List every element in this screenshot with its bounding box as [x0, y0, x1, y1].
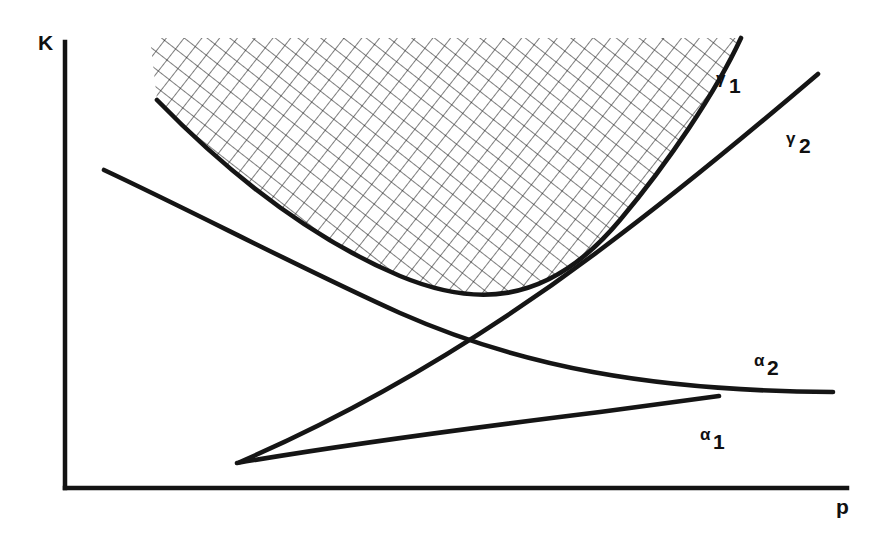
- curve-label-gamma1-base: γ: [716, 69, 726, 88]
- hatched-region: [140, 30, 760, 330]
- curve-label-gamma1-subscript: 1: [729, 74, 741, 97]
- diagram-svg: K p γ 1 γ 2 α 2 α 1: [0, 0, 882, 541]
- curve-label-gamma2: γ 2: [786, 129, 811, 157]
- figure-canvas: K p γ 1 γ 2 α 2 α 1: [0, 0, 882, 541]
- curve-label-alpha2-base: α: [754, 351, 765, 370]
- curve-label-alpha1-subscript: 1: [713, 430, 725, 453]
- curve-label-alpha2: α 2: [754, 351, 779, 379]
- curve-label-gamma2-base: γ: [786, 129, 796, 148]
- crosshatch-fill: [140, 30, 760, 330]
- curve-label-alpha2-subscript: 2: [767, 356, 779, 379]
- curve-label-gamma1: γ 1: [716, 69, 741, 97]
- y-axis-label: K: [38, 31, 53, 54]
- x-axis-label: p: [836, 495, 849, 518]
- curve-label-alpha1: α 1: [700, 425, 725, 453]
- curve-label-alpha1-base: α: [700, 425, 711, 444]
- curve-label-gamma2-subscript: 2: [799, 134, 811, 157]
